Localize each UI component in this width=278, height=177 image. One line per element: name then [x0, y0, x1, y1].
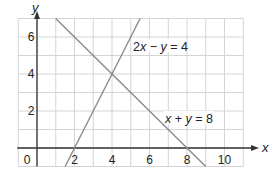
x-tick-label: 6 [146, 153, 153, 167]
x-tick-label: 4 [109, 153, 116, 167]
x-tick-label: 10 [218, 153, 232, 167]
axes: xy [17, 0, 269, 167]
x-tick-label: 2 [71, 153, 78, 167]
y-tick-label: 6 [28, 30, 35, 44]
x-axis-arrow-icon [251, 145, 259, 151]
x-tick-label: 8 [184, 153, 191, 167]
line-labels: 2x − y = 4x + y = 8 [132, 39, 214, 126]
label-2x-minus-y-eq-4: 2x − y = 4 [133, 40, 188, 54]
y-tick-label: 4 [28, 67, 35, 81]
y-axis-label: y [31, 0, 40, 15]
label-x-plus-y-eq-8: x + y = 8 [164, 112, 213, 126]
x-tick-label: 0 [24, 153, 31, 167]
tick-labels: 0246810246 [24, 30, 232, 167]
line-graph: xy 0246810246 2x − y = 4x + y = 8 [0, 0, 278, 177]
x-axis-label: x [261, 140, 269, 155]
y-tick-label: 2 [28, 104, 35, 118]
